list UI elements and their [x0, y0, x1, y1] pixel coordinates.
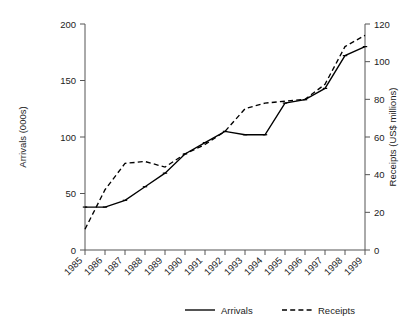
x-axis-tick-label: 1992 — [202, 255, 225, 278]
right-axis-tick-label: 40 — [374, 169, 385, 180]
x-axis-tick-label: 1985 — [62, 255, 85, 278]
left-axis-tick-label: 50 — [65, 188, 76, 199]
x-axis-tick-label: 1989 — [142, 255, 165, 278]
left-axis-tick-label: 150 — [60, 75, 76, 86]
series-line-arrivals — [85, 47, 365, 207]
right-axis-tick-label: 0 — [374, 245, 379, 256]
legend-label-arrivals: Arrivals — [221, 305, 253, 316]
x-axis-tick-label: 1988 — [122, 255, 145, 278]
x-axis-tick-label: 1987 — [102, 255, 125, 278]
x-axis-tick-label: 1994 — [242, 255, 265, 278]
left-axis: 050100150200 — [60, 19, 85, 256]
left-axis-tick-label: 200 — [60, 19, 76, 30]
x-axis-tick-label: 1986 — [82, 255, 105, 278]
x-axis-tick-label: 1998 — [322, 255, 345, 278]
right-axis-tick-label: 120 — [374, 19, 390, 30]
right-axis-tick-label: 60 — [374, 132, 385, 143]
left-axis-title: Arrivals (000s) — [17, 106, 28, 167]
x-axis-tick-label: 1993 — [222, 255, 245, 278]
chart-legend: ArrivalsReceipts — [185, 305, 355, 316]
line-chart: 050100150200 020406080100120 19851986198… — [0, 0, 414, 334]
left-axis-tick-label: 100 — [60, 132, 76, 143]
x-axis-tick-label: 1999 — [342, 255, 365, 278]
right-axis-tick-label: 100 — [374, 56, 390, 67]
x-axis-tick-label: 1990 — [162, 255, 185, 278]
right-axis-tick-label: 20 — [374, 207, 385, 218]
data-series-group — [83, 35, 367, 229]
x-axis-tick-label: 1995 — [262, 255, 285, 278]
right-axis-title: Receipts (US$ millions) — [387, 88, 398, 187]
legend-label-receipts: Receipts — [318, 305, 355, 316]
x-axis-tick-label: 1997 — [302, 255, 325, 278]
right-axis-tick-label: 80 — [374, 94, 385, 105]
x-axis-tick-label: 1991 — [182, 255, 205, 278]
chart-container: 050100150200 020406080100120 19851986198… — [0, 0, 414, 334]
x-axis: 1985198619871988198919901991199219931994… — [62, 250, 365, 277]
left-axis-tick-label: 0 — [71, 245, 76, 256]
x-axis-tick-label: 1996 — [282, 255, 305, 278]
